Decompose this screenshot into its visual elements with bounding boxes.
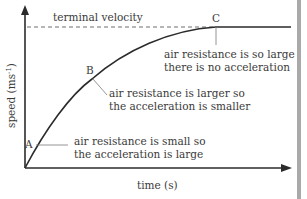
point-c-annotation-line2: there is no acceleration <box>164 61 290 73</box>
terminal-velocity-label: terminal velocity <box>53 11 143 23</box>
speed-time-graph: terminal velocity speed (ms-1) time (s) … <box>0 0 307 199</box>
point-b-annotation-line1: air resistance is larger so <box>109 87 245 99</box>
point-a-annotation-line1: air resistance is small so <box>74 135 205 147</box>
point-b-leader <box>93 79 107 95</box>
page-edge-bar <box>297 0 301 199</box>
x-axis-arrow-icon <box>281 164 292 172</box>
x-axis-label: time (s) <box>137 179 178 191</box>
point-a-label: A <box>24 138 33 150</box>
y-axis-arrow-icon <box>21 5 29 15</box>
point-c-label: C <box>212 12 220 24</box>
y-axis-label: speed (ms-1) <box>5 63 17 128</box>
point-b-label: B <box>86 64 94 76</box>
point-b-annotation-line2: the acceleration is smaller <box>109 100 251 112</box>
point-c-annotation-line1: air resistance is so large <box>164 48 295 60</box>
point-a-annotation-line2: the acceleration is large <box>74 148 203 160</box>
